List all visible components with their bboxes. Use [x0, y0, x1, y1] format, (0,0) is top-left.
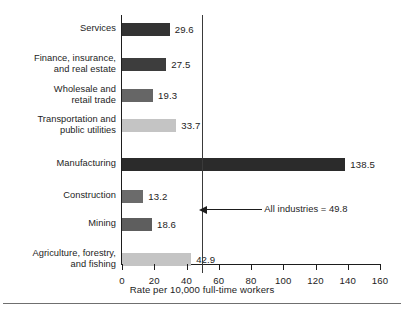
x-tick [154, 264, 155, 270]
category-label: Agriculture, forestry, and fishing [6, 248, 116, 270]
bar-value-label: 42.9 [196, 253, 215, 266]
bar-manufacturing [122, 158, 345, 171]
bar-mining [122, 218, 152, 231]
bar-value-label: 33.7 [181, 119, 200, 132]
bar-value-label: 29.6 [175, 23, 194, 36]
bar-agriculture-forestry-and-fishing [122, 253, 191, 266]
bar-value-label: 13.2 [148, 190, 167, 203]
bar-value-label: 27.5 [171, 58, 190, 71]
bar-wholesale-and-retail-trade [122, 89, 153, 102]
category-axis-labels: ServicesFinance, insurance, and real est… [6, 0, 116, 314]
bar-finance-insurance-and-real-estate [122, 58, 166, 71]
x-tick [348, 264, 349, 270]
x-tick [122, 264, 123, 270]
x-tick [187, 264, 188, 270]
bar-transportation-and-public-utilities [122, 119, 176, 132]
category-label: Mining [6, 218, 116, 229]
bar-value-label: 19.3 [158, 89, 177, 102]
category-label: Transportation and public utilities [6, 114, 116, 136]
category-label: Services [6, 23, 116, 34]
x-tick [380, 264, 381, 270]
bar-services [122, 23, 170, 36]
x-tick [283, 264, 284, 270]
bar-value-label: 138.5 [350, 158, 375, 171]
reference-line-label: All industries = 49.8 [264, 202, 347, 216]
x-tick [219, 264, 220, 270]
category-label: Construction [6, 190, 116, 201]
reference-line-all-industries [202, 15, 203, 273]
bar-chart-figure: ServicesFinance, insurance, and real est… [0, 0, 404, 314]
x-tick [251, 264, 252, 270]
bottom-divider [3, 303, 401, 304]
plot-area: 29.627.519.333.7138.513.218.642.9 All in… [122, 17, 380, 263]
x-axis-title: Rate per 10,000 full-time workers [0, 284, 404, 295]
arrow-left-icon [206, 209, 262, 210]
category-label: Finance, insurance, and real estate [6, 53, 116, 75]
category-label: Wholesale and retail trade [6, 84, 116, 106]
bar-value-label: 18.6 [157, 218, 176, 231]
category-label: Manufacturing [6, 158, 116, 169]
bar-construction [122, 190, 143, 203]
x-tick [316, 264, 317, 270]
